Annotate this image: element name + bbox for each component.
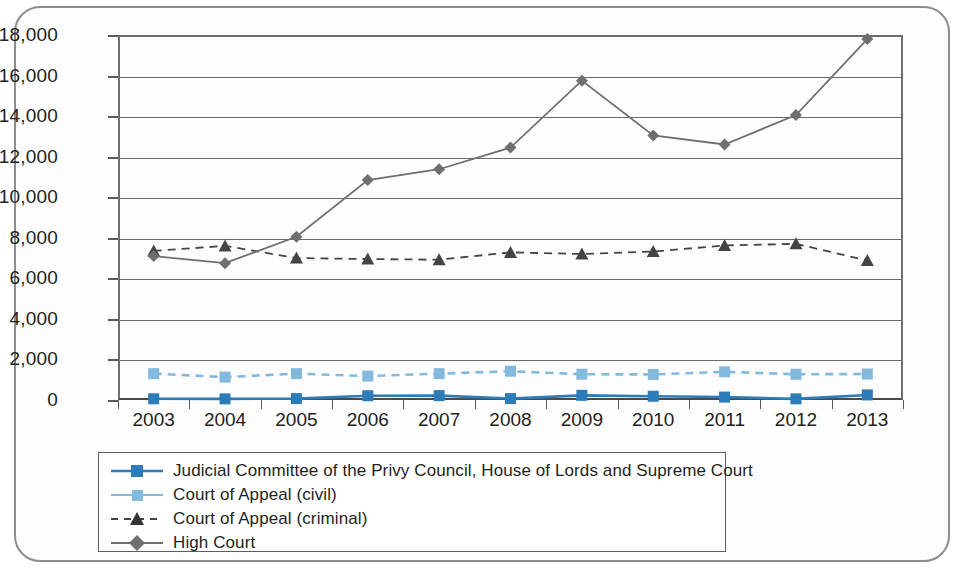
x-tick-label: 2007 <box>418 409 460 431</box>
y-tick-label: 4,000 <box>0 308 58 330</box>
plot-area <box>118 35 903 400</box>
x-tick-mark <box>832 400 833 409</box>
y-tick-label: 2,000 <box>0 348 58 370</box>
y-tick-mark <box>108 35 118 37</box>
gridline <box>120 36 901 37</box>
y-tick-mark <box>108 238 118 240</box>
chart-page: 18,00016,00014,00012,00010,0008,0006,000… <box>0 0 964 570</box>
legend-label-high-court: High Court <box>173 533 255 553</box>
legend-item-privy-council[interactable]: Judicial Committee of the Privy Council,… <box>99 459 725 483</box>
gridline <box>120 320 901 321</box>
y-tick-mark <box>108 400 118 402</box>
x-tick-label: 2005 <box>275 409 317 431</box>
gridline <box>120 198 901 199</box>
gridline <box>120 279 901 280</box>
y-tick-label: 14,000 <box>0 105 58 127</box>
x-tick-mark <box>618 400 619 409</box>
line-chart: 18,00016,00014,00012,00010,0008,0006,000… <box>0 0 964 570</box>
legend-marker-square-dark <box>109 460 165 482</box>
y-tick-mark <box>108 278 118 280</box>
y-tick-label: 6,000 <box>0 267 58 289</box>
legend-item-court-of-appeal-criminal[interactable]: Court of Appeal (criminal) <box>99 507 725 531</box>
x-tick-label: 2004 <box>204 409 246 431</box>
x-tick-mark <box>903 400 904 409</box>
legend-marker-diamond <box>109 532 165 554</box>
y-tick-label: 18,000 <box>0 24 58 46</box>
x-tick-label: 2009 <box>561 409 603 431</box>
y-tick-mark <box>108 197 118 199</box>
y-tick-label: 12,000 <box>0 146 58 168</box>
legend-item-court-of-appeal-civil[interactable]: Court of Appeal (civil) <box>99 483 725 507</box>
y-tick-mark <box>108 359 118 361</box>
gridline <box>120 77 901 78</box>
x-tick-mark <box>118 400 119 409</box>
x-tick-mark <box>475 400 476 409</box>
y-tick-label: 10,000 <box>0 186 58 208</box>
x-tick-label: 2006 <box>347 409 389 431</box>
y-tick-label: 0 <box>0 389 58 411</box>
gridline <box>120 360 901 361</box>
y-tick-mark <box>108 157 118 159</box>
y-tick-mark <box>108 76 118 78</box>
legend-label-court-of-appeal-criminal: Court of Appeal (criminal) <box>173 509 367 529</box>
gridline <box>120 117 901 118</box>
legend-label-privy-council: Judicial Committee of the Privy Council,… <box>173 461 753 481</box>
x-tick-label: 2012 <box>775 409 817 431</box>
legend-marker-square-light <box>109 484 165 506</box>
x-tick-label: 2003 <box>133 409 175 431</box>
x-tick-mark <box>261 400 262 409</box>
x-tick-mark <box>689 400 690 409</box>
x-tick-label: 2010 <box>632 409 674 431</box>
y-tick-label: 8,000 <box>0 227 58 249</box>
x-tick-label: 2011 <box>704 409 745 431</box>
x-tick-mark <box>332 400 333 409</box>
x-tick-label: 2013 <box>846 409 888 431</box>
x-tick-mark <box>546 400 547 409</box>
x-tick-label: 2008 <box>489 409 531 431</box>
y-tick-label: 16,000 <box>0 65 58 87</box>
legend-marker-triangle <box>109 508 165 530</box>
x-tick-mark <box>403 400 404 409</box>
x-tick-mark <box>189 400 190 409</box>
x-tick-mark <box>760 400 761 409</box>
gridline <box>120 239 901 240</box>
y-tick-mark <box>108 116 118 118</box>
legend-label-court-of-appeal-civil: Court of Appeal (civil) <box>173 485 337 505</box>
gridline <box>120 158 901 159</box>
chart-legend: Judicial Committee of the Privy Council,… <box>98 452 726 552</box>
y-tick-mark <box>108 319 118 321</box>
legend-item-high-court[interactable]: High Court <box>99 531 725 555</box>
